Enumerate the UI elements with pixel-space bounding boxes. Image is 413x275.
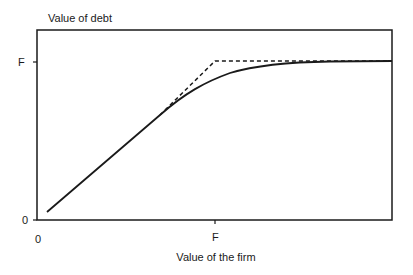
plot-frame — [37, 30, 392, 220]
xtick-F-label: F — [212, 231, 219, 243]
y-axis-label: Value of debt — [48, 12, 112, 24]
xtick-0-label: 0 — [35, 233, 41, 245]
ytick-0-label: 0 — [22, 214, 28, 226]
chart-canvas — [0, 0, 413, 275]
x-axis-label: Value of the firm — [0, 251, 413, 263]
dashed-bound-line — [160, 61, 392, 115]
debt-value-curve — [47, 61, 392, 212]
ytick-F-label: F — [18, 56, 25, 68]
